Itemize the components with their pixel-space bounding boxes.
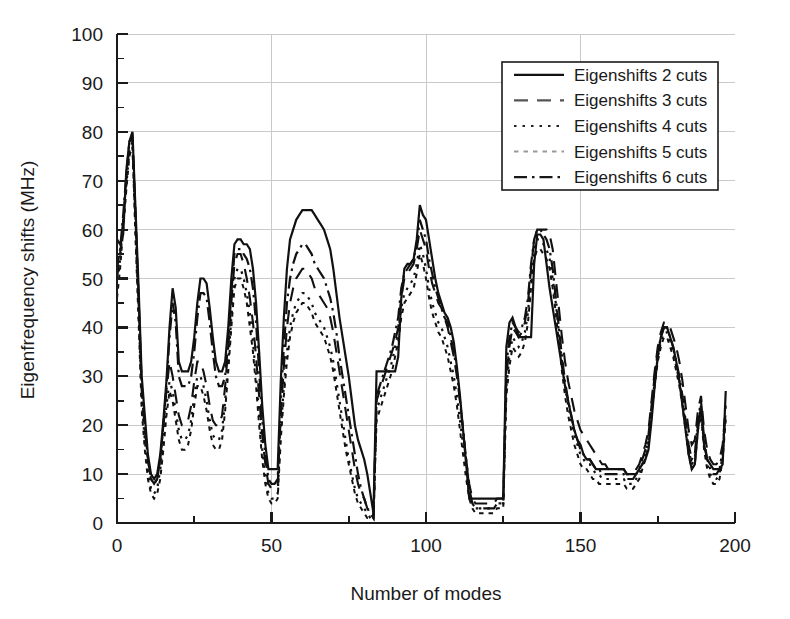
legend-label-3: Eigenshifts 4 cuts (574, 117, 707, 136)
y-tick-label: 80 (82, 122, 103, 143)
y-tick-label: 20 (82, 415, 103, 436)
x-tick-label: 100 (410, 535, 442, 556)
legend-label-1: Eigenshifts 2 cuts (574, 66, 707, 85)
x-tick-label: 200 (719, 535, 751, 556)
y-tick-label: 70 (82, 171, 103, 192)
y-tick-label: 50 (82, 269, 103, 290)
y-tick-label: 90 (82, 73, 103, 94)
y-tick-label: 10 (82, 464, 103, 485)
chart-legend: Eigenshifts 2 cutsEigenshifts 3 cutsEige… (502, 62, 718, 190)
y-tick-label: 40 (82, 317, 103, 338)
x-tick-label: 0 (112, 535, 123, 556)
x-axis-title: Number of modes (350, 583, 501, 604)
x-tick-label: 50 (261, 535, 282, 556)
y-tick-label: 30 (82, 366, 103, 387)
line-chart: 0102030405060708090100050100150200 Eigen… (0, 0, 790, 619)
y-tick-label: 60 (82, 220, 103, 241)
legend-label-4: Eigenshifts 5 cuts (574, 143, 707, 162)
figure-container: 0102030405060708090100050100150200 Eigen… (0, 0, 790, 619)
y-axis-title: Eigenfrequency shifts (MHz) (17, 161, 38, 400)
y-tick-label: 0 (92, 513, 103, 534)
x-tick-label: 150 (565, 535, 597, 556)
y-tick-label: 100 (71, 24, 103, 45)
legend-label-2: Eigenshifts 3 cuts (574, 91, 707, 110)
legend-label-5: Eigenshifts 6 cuts (574, 168, 707, 187)
